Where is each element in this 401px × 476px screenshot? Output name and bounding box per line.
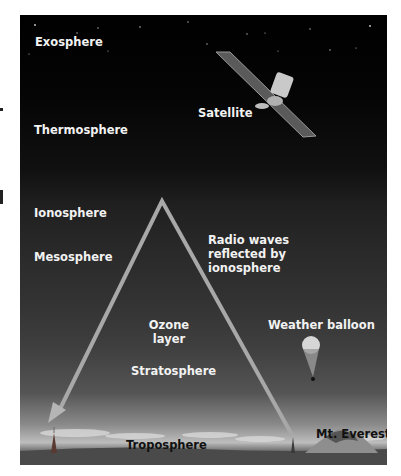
weather-balloon-label: Weather balloon <box>268 318 375 332</box>
satellite-label: Satellite <box>198 106 252 120</box>
atmosphere-diagram: Exosphere Thermosphere Ionosphere Mesosp… <box>20 15 387 465</box>
mt-everest-label: Mt. Everest <box>316 427 387 441</box>
weather-balloon-icon <box>302 336 320 381</box>
radio-tower-icon <box>291 437 295 453</box>
layer-label-troposphere: Troposphere <box>126 438 207 452</box>
margin-mark <box>0 108 3 111</box>
ozone-line-2: layer <box>145 332 193 346</box>
layer-label-thermosphere: Thermosphere <box>34 123 128 137</box>
radio-waves-label: Radio waves reflected by ionosphere <box>208 233 289 275</box>
layer-label-stratosphere: Stratosphere <box>131 364 216 378</box>
layer-label-ionosphere: Ionosphere <box>34 206 107 220</box>
radio-waves-line-2: reflected by <box>208 247 289 261</box>
diagram-artwork <box>20 15 387 465</box>
satellite-icon <box>216 52 316 137</box>
ozone-layer-label: Ozone layer <box>145 318 193 346</box>
layer-label-mesosphere: Mesosphere <box>34 250 113 264</box>
ozone-line-1: Ozone <box>145 318 193 332</box>
margin-mark <box>0 190 3 204</box>
radio-waves-line-3: ionosphere <box>208 261 289 275</box>
radio-waves-line-1: Radio waves <box>208 233 289 247</box>
layer-label-exosphere: Exosphere <box>35 35 103 49</box>
